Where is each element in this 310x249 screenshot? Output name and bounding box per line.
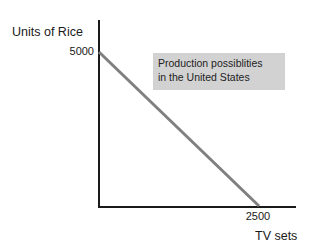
ppf-annotation-box: Production possiblities in the United St… [153, 53, 285, 90]
x-axis-line [98, 206, 296, 208]
y-axis-title: Units of Rice [12, 25, 83, 39]
x-axis-title: TV sets [255, 229, 297, 243]
y-axis-line [98, 20, 100, 208]
ppf-chart: Units of Rice TV sets 5000 2500 Producti… [0, 0, 310, 249]
x-tick-label-2500: 2500 [238, 210, 278, 223]
y-tick-label-5000: 5000 [65, 45, 94, 58]
ppf-annotation-line-1: Production possiblities [158, 56, 285, 70]
ppf-annotation-line-2: in the United States [158, 70, 285, 84]
